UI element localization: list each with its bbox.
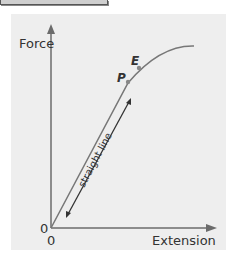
- origin-x-label: 0: [47, 233, 55, 248]
- y-axis-label: Force: [19, 36, 54, 51]
- point-e-label: E: [131, 54, 140, 68]
- x-axis-label: Extension: [152, 233, 216, 248]
- straight-line-annotation: straight line: [76, 131, 114, 189]
- y-axis-arrow-icon: [47, 24, 55, 34]
- x-axis-arrow-icon: [206, 224, 217, 232]
- point-p-label: P: [117, 71, 126, 85]
- arrow-head-top-icon: [126, 98, 131, 105]
- arrow-head-bottom-icon: [66, 211, 71, 218]
- limit-of-proportionality-point: [126, 80, 130, 84]
- force-extension-graph: Force Extension 0 0 P E straight line: [0, 0, 238, 268]
